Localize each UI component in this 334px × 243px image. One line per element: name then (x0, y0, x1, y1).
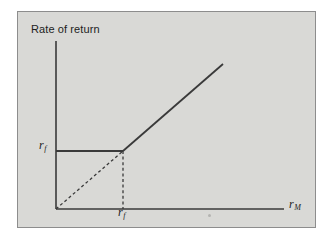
x-axis-name-symbol: r (289, 197, 294, 211)
reference-dashed-line (56, 151, 123, 209)
x-axis-rf-symbol: r (118, 205, 123, 219)
x-axis-rf-subscript: f (123, 211, 126, 220)
scan-artifact-dot (208, 214, 211, 217)
figure-root: Rate of return rf rf rM (0, 0, 334, 243)
x-axis-rf-label: rf (118, 206, 125, 220)
y-axis-rf-label: rf (39, 139, 46, 153)
y-axis-rf-subscript: f (44, 144, 47, 153)
plot-drawing (18, 12, 316, 228)
x-axis-name-subscript: M (294, 203, 301, 212)
y-axis-rf-symbol: r (39, 138, 44, 152)
x-axis-name-label: rM (289, 198, 301, 212)
characteristic-line (123, 64, 223, 151)
chart-panel: Rate of return rf rf rM (17, 11, 316, 228)
